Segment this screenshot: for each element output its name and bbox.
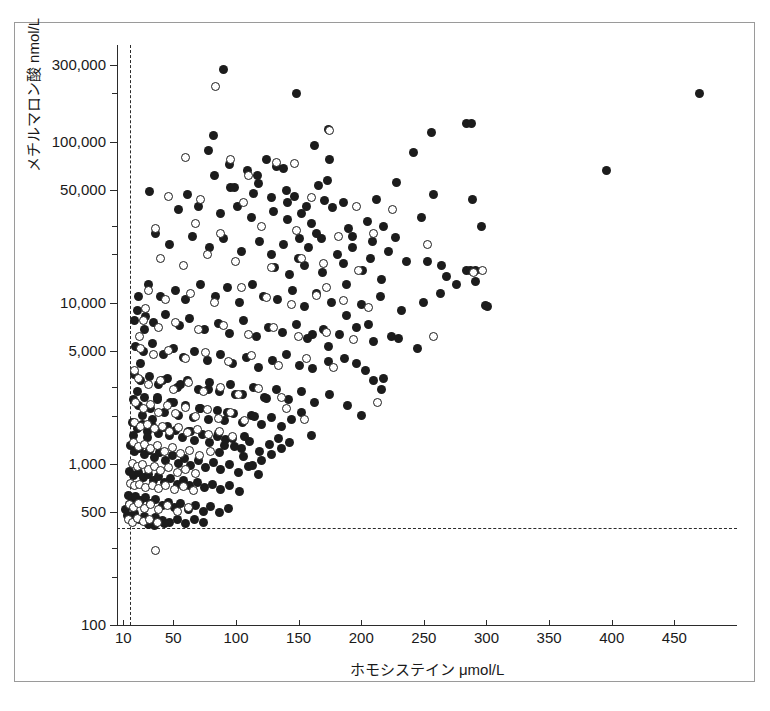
data-point-open [191, 469, 200, 478]
data-point-open [191, 412, 200, 421]
data-point-filled [239, 452, 248, 461]
data-point-filled [308, 364, 317, 373]
data-point-filled [379, 222, 388, 231]
data-point-filled [183, 190, 192, 199]
data-point-open [354, 266, 363, 275]
data-point-filled [372, 195, 381, 204]
data-point-open [334, 232, 343, 241]
data-point-filled [282, 350, 291, 359]
y-tick-major [110, 625, 118, 626]
data-point-open [226, 155, 235, 164]
data-point-filled [254, 470, 263, 479]
data-point-open [144, 380, 153, 389]
data-point-filled [391, 233, 400, 242]
data-point-open [262, 293, 271, 302]
data-point-filled [239, 316, 248, 325]
data-point-filled [436, 289, 445, 298]
data-point-open [469, 268, 478, 277]
data-point-filled [216, 465, 225, 474]
data-point-filled [190, 436, 199, 445]
data-point-open [181, 153, 190, 162]
data-point-open [240, 416, 249, 425]
data-point-filled [257, 420, 266, 429]
data-point-filled [471, 277, 480, 286]
data-point-open [196, 195, 205, 204]
data-point-open [244, 171, 253, 180]
data-point-open [191, 219, 200, 228]
data-point-open [199, 387, 208, 396]
data-point-open [290, 159, 299, 168]
data-point-filled [295, 234, 304, 243]
x-tick-label: 250 [411, 630, 436, 645]
data-point-filled [210, 171, 219, 180]
data-point-filled [188, 232, 197, 241]
data-point-filled [254, 179, 263, 188]
data-point-filled [219, 65, 228, 74]
data-point-filled [204, 146, 213, 155]
data-point-open [173, 507, 182, 516]
data-point-open [184, 503, 193, 512]
data-point-filled [277, 444, 286, 453]
data-point-filled [325, 155, 334, 164]
data-point-open [174, 423, 183, 432]
data-point-filled [267, 413, 276, 422]
data-point-open [257, 222, 266, 231]
data-point-filled [248, 280, 257, 289]
data-point-filled [292, 320, 301, 329]
data-point-open [144, 286, 153, 295]
data-point-filled [235, 487, 244, 496]
data-point-open [154, 323, 163, 332]
data-point-open [185, 446, 194, 455]
x-tick-label: 400 [599, 630, 624, 645]
data-point-open [151, 546, 160, 555]
data-point-open [184, 378, 193, 387]
data-point-filled [340, 354, 349, 363]
data-point-open [244, 330, 253, 339]
data-point-open [135, 332, 144, 341]
data-point-open [373, 398, 382, 407]
data-point-filled [429, 190, 438, 199]
data-point-filled [325, 390, 334, 399]
data-point-open [181, 403, 190, 412]
x-tick-label: 50 [165, 630, 182, 645]
data-point-open [179, 482, 188, 491]
data-point-filled [254, 363, 263, 372]
data-point-filled [262, 394, 271, 403]
y-axis-label: メチルマロン酸 nmol/L [22, 0, 43, 215]
data-point-open [203, 405, 212, 414]
data-point-filled [174, 205, 183, 214]
x-tick-label: 10 [115, 630, 132, 645]
data-point-filled [307, 219, 316, 228]
data-point-filled [481, 301, 490, 310]
data-point-open [388, 205, 397, 214]
data-point-open [211, 82, 220, 91]
data-point-filled [168, 451, 177, 460]
data-point-open [153, 518, 162, 527]
data-point-filled [133, 306, 142, 315]
data-point-filled [452, 280, 461, 289]
data-point-filled [283, 198, 292, 207]
data-point-filled [392, 178, 401, 187]
data-point-filled [133, 387, 142, 396]
data-point-filled [318, 268, 327, 277]
data-point-filled [269, 207, 278, 216]
data-point-open [287, 300, 296, 309]
data-point-open [322, 328, 331, 337]
data-point-filled [224, 504, 233, 513]
data-point-filled [203, 356, 212, 365]
data-point-filled [427, 128, 436, 137]
data-point-open [173, 468, 182, 477]
data-point-filled [225, 460, 234, 469]
y-tick-label: 50,000 [60, 182, 106, 197]
data-point-filled [257, 456, 266, 465]
data-point-filled [199, 518, 208, 527]
data-point-filled [377, 385, 386, 394]
data-point-open [267, 263, 276, 272]
data-point-filled [364, 320, 373, 329]
data-point-open [352, 202, 361, 211]
data-point-filled [267, 193, 276, 202]
data-point-filled [308, 330, 317, 339]
data-point-open [161, 481, 170, 490]
data-point-filled [206, 502, 215, 511]
x-tick-label: 150 [286, 630, 311, 645]
